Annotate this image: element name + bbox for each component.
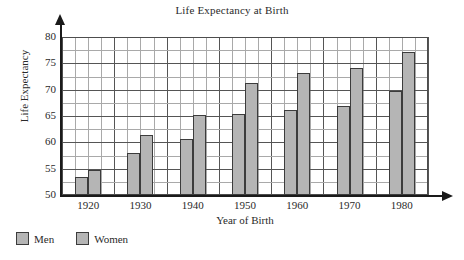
bar-women-1970 <box>350 68 363 195</box>
y-tick-55: 55 <box>22 162 56 174</box>
gridline-horizontal <box>62 50 428 51</box>
legend-label-women: Women <box>94 233 128 245</box>
bar-women-1930 <box>140 135 153 195</box>
x-tick-1950: 1950 <box>220 199 270 211</box>
bar-women-1980 <box>402 52 415 195</box>
x-tick-1970: 1970 <box>325 199 375 211</box>
bar-men-1980 <box>389 91 402 195</box>
x-tick-1980: 1980 <box>377 199 427 211</box>
y-tick-50: 50 <box>22 188 56 200</box>
bar-men-1960 <box>284 110 297 195</box>
x-tick-1930: 1930 <box>115 199 165 211</box>
y-tick-65: 65 <box>22 109 56 121</box>
chart-legend: MenWomen <box>16 232 142 245</box>
bar-men-1930 <box>127 153 140 195</box>
y-axis-line <box>60 22 62 197</box>
chart-container: Life Expectancy at Birth Life Expectancy… <box>0 0 464 260</box>
legend-label-men: Men <box>34 233 54 245</box>
gridline-horizontal <box>62 77 428 78</box>
y-axis-arrow-icon <box>55 14 65 25</box>
chart-title: Life Expectancy at Birth <box>0 4 464 16</box>
y-tick-70: 70 <box>22 83 56 95</box>
gridline-horizontal <box>62 37 428 38</box>
bar-women-1940 <box>193 115 206 195</box>
x-axis-line <box>60 195 446 197</box>
bar-women-1920 <box>88 170 101 195</box>
x-tick-1920: 1920 <box>63 199 113 211</box>
y-tick-80: 80 <box>22 30 56 42</box>
bar-men-1940 <box>180 139 193 195</box>
bar-men-1970 <box>337 106 350 195</box>
bar-men-1950 <box>232 114 245 195</box>
gridline-vertical <box>428 37 429 195</box>
gridline-horizontal <box>62 63 428 64</box>
plot-area <box>62 37 428 195</box>
bar-men-1920 <box>75 177 88 195</box>
legend-item-women: Women <box>76 232 128 245</box>
x-tick-1960: 1960 <box>272 199 322 211</box>
y-tick-75: 75 <box>22 56 56 68</box>
bar-women-1950 <box>245 83 258 195</box>
legend-swatch-women <box>76 232 89 245</box>
y-tick-60: 60 <box>22 135 56 147</box>
legend-item-men: Men <box>16 232 54 245</box>
x-tick-1940: 1940 <box>168 199 218 211</box>
x-axis-label: Year of Birth <box>62 214 428 226</box>
bar-women-1960 <box>297 73 310 195</box>
legend-swatch-men <box>16 232 29 245</box>
x-axis-arrow-icon <box>442 191 453 201</box>
